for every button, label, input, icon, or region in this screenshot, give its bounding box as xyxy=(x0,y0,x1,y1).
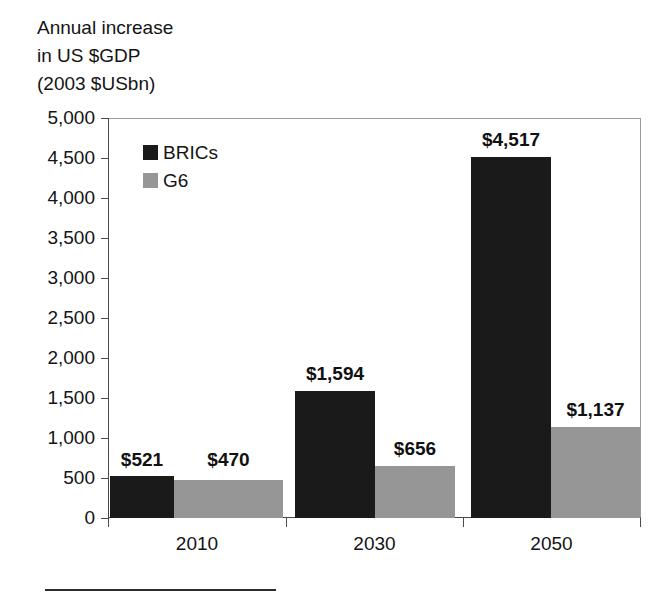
bar-label-g6-2030: $656 xyxy=(375,438,455,460)
legend-item-g6: G6 xyxy=(143,166,218,194)
ytick-label-3500: 3,500 xyxy=(20,227,95,249)
ytick-mark-1500 xyxy=(101,398,109,399)
footnote-rule xyxy=(45,589,276,591)
ytick-label-2500: 2,500 xyxy=(20,307,95,329)
axis-title-line-3: (2003 $USbn) xyxy=(37,70,173,98)
ytick-label-2000: 2,000 xyxy=(20,347,95,369)
axis-title-block: Annual increase in US $GDP (2003 $USbn) xyxy=(37,14,173,98)
ytick-mark-3500 xyxy=(101,238,109,239)
bar-label-g6-2050: $1,137 xyxy=(549,399,642,421)
xtick-mark-right xyxy=(640,518,641,527)
chart-legend: BRICs G6 xyxy=(143,138,218,194)
xtick-label-2010: 2010 xyxy=(108,533,286,555)
legend-item-brics: BRICs xyxy=(143,138,218,166)
bar-brics-2010 xyxy=(110,476,174,518)
ytick-label-1000: 1,000 xyxy=(20,427,95,449)
ytick-mark-5000 xyxy=(101,118,109,119)
bar-g6-2050 xyxy=(551,427,640,518)
legend-label-brics: BRICs xyxy=(163,143,218,162)
xtick-label-2030: 2030 xyxy=(286,533,463,555)
ytick-label-500: 500 xyxy=(20,467,95,489)
ytick-mark-4500 xyxy=(101,158,109,159)
ytick-label-5000: 5,000 xyxy=(20,107,95,129)
chart-figure: Annual increase in US $GDP (2003 $USbn) … xyxy=(0,0,672,604)
ytick-mark-3000 xyxy=(101,278,109,279)
ytick-label-0: 0 xyxy=(20,507,95,529)
bar-g6-2030 xyxy=(375,466,455,519)
ytick-mark-4000 xyxy=(101,198,109,199)
bar-label-brics-2050: $4,517 xyxy=(471,129,551,151)
ytick-mark-2000 xyxy=(101,358,109,359)
g6-swatch-icon xyxy=(143,173,158,188)
brics-swatch-icon xyxy=(143,145,158,160)
ytick-label-1500: 1,500 xyxy=(20,387,95,409)
ytick-label-4500: 4,500 xyxy=(20,147,95,169)
bar-label-brics-2030: $1,594 xyxy=(295,363,375,385)
axis-title-line-2: in US $GDP xyxy=(37,42,173,70)
legend-label-g6: G6 xyxy=(163,171,188,190)
bar-label-g6-2010: $470 xyxy=(174,449,283,471)
ytick-mark-500 xyxy=(101,478,109,479)
ytick-mark-1000 xyxy=(101,438,109,439)
ytick-label-3000: 3,000 xyxy=(20,267,95,289)
bar-g6-2010 xyxy=(174,480,283,518)
ytick-mark-2500 xyxy=(101,318,109,319)
axis-title-line-1: Annual increase xyxy=(37,14,173,42)
xtick-label-2050: 2050 xyxy=(463,533,640,555)
bar-label-brics-2010: $521 xyxy=(110,449,174,471)
xtick-mark-left xyxy=(108,518,109,527)
xtick-mark-2030-2050 xyxy=(463,518,464,527)
bar-brics-2030 xyxy=(295,391,375,519)
ytick-label-4000: 4,000 xyxy=(20,187,95,209)
xtick-mark-2010-2030 xyxy=(286,518,287,527)
bar-brics-2050 xyxy=(471,157,551,518)
